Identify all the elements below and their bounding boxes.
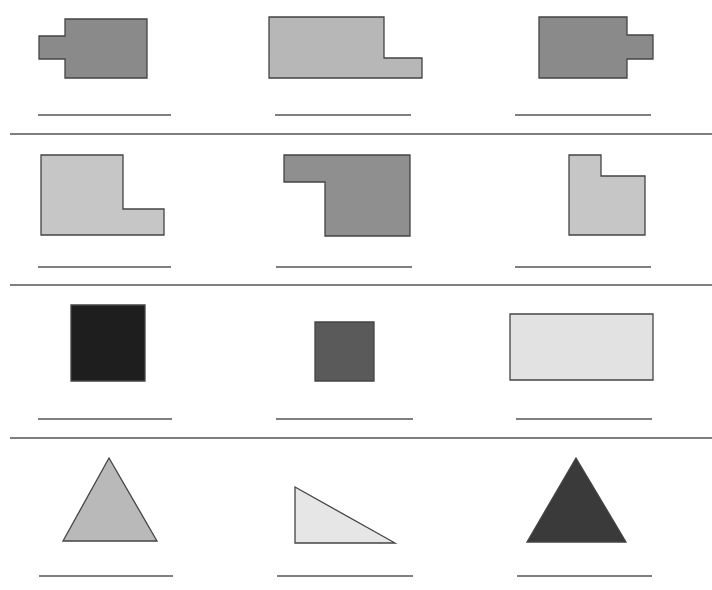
shape-9-cell bbox=[510, 314, 653, 419]
shape-9 bbox=[510, 314, 653, 380]
shape-2-cell bbox=[269, 17, 422, 115]
shape-5-cell bbox=[276, 155, 412, 267]
shape-4-cell bbox=[38, 155, 171, 267]
shape-7-cell bbox=[38, 305, 172, 419]
shape-grid bbox=[38, 17, 653, 576]
shape-11 bbox=[295, 487, 395, 543]
worksheet-canvas bbox=[0, 0, 712, 590]
shape-1 bbox=[39, 19, 147, 78]
shape-4 bbox=[41, 155, 164, 235]
shape-10-cell bbox=[39, 458, 173, 576]
shape-7 bbox=[71, 305, 145, 381]
shape-5 bbox=[284, 155, 410, 236]
shape-8-cell bbox=[276, 322, 413, 419]
shapes-worksheet bbox=[0, 0, 712, 590]
shape-8 bbox=[315, 322, 374, 381]
shape-6 bbox=[569, 155, 645, 235]
shape-6-cell bbox=[515, 155, 651, 267]
shape-2 bbox=[269, 17, 422, 78]
shape-3-cell bbox=[515, 17, 653, 115]
shape-10 bbox=[63, 458, 157, 541]
shape-1-cell bbox=[38, 19, 171, 115]
shape-12-cell bbox=[517, 458, 652, 576]
shape-11-cell bbox=[277, 487, 413, 576]
shape-3 bbox=[539, 17, 653, 78]
shape-12 bbox=[527, 458, 626, 542]
